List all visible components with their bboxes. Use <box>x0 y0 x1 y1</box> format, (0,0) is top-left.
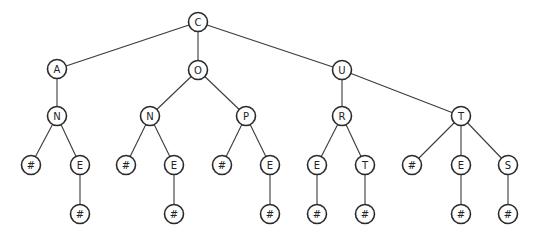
node-label: T <box>361 160 369 171</box>
terminal-node: # <box>308 205 327 224</box>
tree-node: O <box>189 61 208 80</box>
node-label: R <box>339 111 346 122</box>
trie-diagram: CAOUNNPRT#E#E#EET#ES####### <box>0 0 543 242</box>
tree-node: P <box>237 107 256 126</box>
tree-edge <box>412 116 461 165</box>
node-label: E <box>458 160 464 171</box>
node-label: # <box>218 160 226 171</box>
node-label: A <box>54 64 61 75</box>
node-label: U <box>338 65 345 76</box>
terminal-node: # <box>356 205 375 224</box>
node-label: # <box>504 209 512 220</box>
node-label: S <box>505 160 511 171</box>
tree-node: E <box>308 156 327 175</box>
tree-node: E <box>71 156 90 175</box>
node-label: E <box>77 160 83 171</box>
edges <box>31 22 508 214</box>
node-label: # <box>361 209 369 220</box>
tree-node: C <box>189 13 208 32</box>
terminal-node: # <box>165 205 184 224</box>
tree-node: T <box>452 107 471 126</box>
tree-node: U <box>333 61 352 80</box>
node-label: # <box>170 209 178 220</box>
tree-node: N <box>48 107 67 126</box>
terminal-node: # <box>499 205 518 224</box>
tree-edge <box>198 22 342 70</box>
terminal-node: # <box>71 205 90 224</box>
terminal-node: # <box>117 156 136 175</box>
tree-node: E <box>452 156 471 175</box>
tree-edge <box>57 22 198 69</box>
tree-node: R <box>333 107 352 126</box>
tree-node: E <box>165 156 184 175</box>
node-label: N <box>146 111 153 122</box>
node-label: T <box>457 111 465 122</box>
node-label: # <box>408 160 416 171</box>
node-label: E <box>171 160 177 171</box>
node-label: E <box>314 160 320 171</box>
tree-node: T <box>356 156 375 175</box>
terminal-node: # <box>452 205 471 224</box>
tree-node: N <box>141 107 160 126</box>
tree-node: E <box>261 156 280 175</box>
node-label: P <box>243 111 249 122</box>
tree-node: A <box>48 60 67 79</box>
node-label: O <box>194 65 202 76</box>
node-label: C <box>195 17 202 28</box>
tree-edge <box>342 70 461 116</box>
node-label: # <box>76 209 84 220</box>
node-label: # <box>266 209 274 220</box>
terminal-node: # <box>22 156 41 175</box>
terminal-node: # <box>261 205 280 224</box>
terminal-node: # <box>403 156 422 175</box>
node-label: # <box>122 160 130 171</box>
node-label: # <box>457 209 465 220</box>
node-label: N <box>53 111 60 122</box>
node-label: # <box>27 160 35 171</box>
node-label: E <box>267 160 273 171</box>
terminal-node: # <box>213 156 232 175</box>
tree-node: S <box>499 156 518 175</box>
node-label: # <box>313 209 321 220</box>
